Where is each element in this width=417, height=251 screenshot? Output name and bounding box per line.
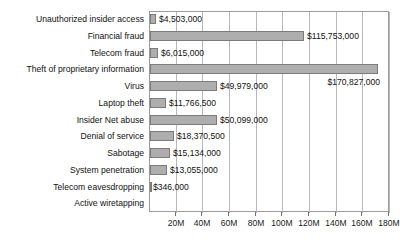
tick-80M <box>255 212 256 216</box>
tick-20M <box>175 212 176 216</box>
tick-180M <box>388 212 389 216</box>
bar-row: Sabotage$15,134,000 <box>0 145 417 161</box>
bar-value-label: $115,753,000 <box>307 28 359 44</box>
bar <box>150 98 166 108</box>
bar-row: Telecom eavesdropping$346,000 <box>0 179 417 195</box>
category-label: Laptop theft <box>0 95 144 111</box>
bar-value-label: $4,503,000 <box>159 11 202 27</box>
category-label: Telecom fraud <box>0 45 144 61</box>
bar-row: Theft of proprietary information$170,827… <box>0 61 417 77</box>
bar <box>150 131 174 141</box>
category-label: Financial fraud <box>0 28 144 44</box>
tick-100M <box>281 212 282 216</box>
chart-page: 20M40M60M80M100M120M140M160M180M Unautho… <box>0 0 417 251</box>
bar-row: Unauthorized insider access$4,503,000 <box>0 11 417 27</box>
category-label: System penetration <box>0 162 144 178</box>
bar <box>150 182 152 192</box>
bar <box>150 31 304 41</box>
x-tick-label: 180M <box>369 218 409 228</box>
tick-120M <box>308 212 309 216</box>
tick-60M <box>228 212 229 216</box>
category-label: Theft of proprietary information <box>0 61 144 77</box>
tick-160M <box>361 212 362 216</box>
bar-value-label: $15,134,000 <box>173 145 221 161</box>
bar <box>150 148 170 158</box>
category-label: Sabotage <box>0 145 144 161</box>
bar <box>150 64 378 74</box>
category-label: Insider Net abuse <box>0 112 144 128</box>
bar <box>150 48 158 58</box>
bar <box>150 14 156 24</box>
bar-value-label: $50,099,000 <box>220 112 268 128</box>
bar-value-label: $6,015,000 <box>161 45 204 61</box>
bar-value-label: $11,766,500 <box>169 95 216 111</box>
category-label: Virus <box>0 78 144 94</box>
category-label: Unauthorized insider access <box>0 11 144 27</box>
bar <box>150 165 167 175</box>
bar <box>150 81 217 91</box>
tick-40M <box>201 212 202 216</box>
bar-row: Telecom fraud$6,015,000 <box>0 45 417 61</box>
bar-value-label: $13,055,000 <box>170 162 218 178</box>
bar-row: Laptop theft$11,766,500 <box>0 95 417 111</box>
bar <box>150 115 217 125</box>
bar-row: Virus$49,979,000 <box>0 78 417 94</box>
bar-row: System penetration$13,055,000 <box>0 162 417 178</box>
bar-row: Insider Net abuse$50,099,000 <box>0 112 417 128</box>
bar-row: Financial fraud$115,753,000 <box>0 28 417 44</box>
category-label: Active wiretapping <box>0 195 144 211</box>
bar-value-label: $49,979,000 <box>220 78 268 94</box>
bar-row: Denial of service$18,370,500 <box>0 128 417 144</box>
category-label: Telecom eavesdropping <box>0 179 144 195</box>
bar-value-label: $346,000 <box>153 179 189 195</box>
category-label: Denial of service <box>0 128 144 144</box>
bar-row: Active wiretapping <box>0 195 417 211</box>
bar-value-label: $18,370,500 <box>177 128 225 144</box>
tick-140M <box>335 212 336 216</box>
